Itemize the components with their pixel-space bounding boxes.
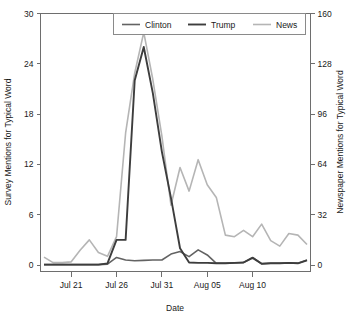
y-axis-left-title: Survey Mentions for Typical Word [3, 78, 13, 205]
x-tick-label: Jul 31 [151, 280, 174, 290]
y-axis-right-title: Newspaper Mentions for Typical Word [335, 70, 345, 214]
y-right-tick-label: 32 [318, 210, 328, 220]
y-left-tick-label: 30 [24, 9, 34, 19]
chart-container: 0612182430 0326496128160 Jul 21Jul 26Jul… [0, 0, 351, 319]
x-tick-label: Jul 26 [105, 280, 128, 290]
x-axis-title: Date [166, 303, 184, 313]
y-axis-right: 0326496128160 [311, 9, 332, 271]
y-left-tick-label: 12 [24, 159, 34, 169]
y-left-tick-label: 6 [29, 210, 34, 220]
legend-label-clinton[interactable]: Clinton [145, 20, 172, 30]
x-axis: Jul 21Jul 26Jul 31Aug 05Aug 10 [60, 272, 266, 290]
y-right-tick-label: 96 [318, 109, 328, 119]
legend-label-trump[interactable]: Trump [211, 20, 236, 30]
x-tick-label: Jul 21 [60, 280, 83, 290]
y-right-tick-label: 0 [318, 260, 323, 270]
series-line-trump [44, 47, 307, 265]
y-left-tick-label: 24 [24, 59, 34, 69]
series-layer [44, 32, 307, 264]
y-left-tick-label: 0 [29, 260, 34, 270]
y-right-tick-label: 64 [318, 159, 328, 169]
y-left-tick-label: 18 [24, 109, 34, 119]
line-chart: 0612182430 0326496128160 Jul 21Jul 26Jul… [0, 0, 351, 319]
y-right-tick-label: 160 [318, 9, 332, 19]
chart-legend: ClintonTrumpNews [114, 14, 306, 35]
x-tick-label: Aug 05 [194, 280, 221, 290]
x-tick-label: Aug 10 [239, 280, 266, 290]
y-right-tick-label: 128 [318, 59, 332, 69]
legend-label-news[interactable]: News [276, 20, 297, 30]
series-line-clinton [44, 250, 307, 265]
plot-frame [41, 14, 311, 272]
y-axis-left: 0612182430 [24, 9, 40, 271]
